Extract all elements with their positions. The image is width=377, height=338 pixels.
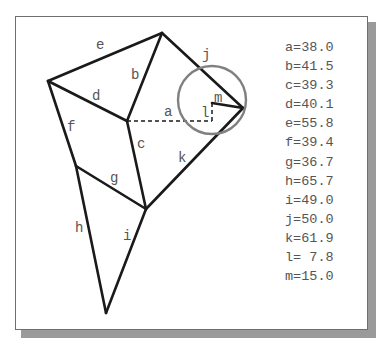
measurement-l: l= 7.8 bbox=[285, 248, 334, 267]
measurement-f: f=39.4 bbox=[285, 133, 334, 152]
label-c: c bbox=[137, 136, 145, 152]
label-j: j bbox=[202, 47, 210, 63]
edge-h bbox=[76, 166, 106, 313]
edge-k bbox=[146, 108, 243, 209]
label-b: b bbox=[131, 67, 139, 83]
measurement-m: m=15.0 bbox=[285, 267, 334, 286]
label-h: h bbox=[75, 220, 83, 236]
label-g: g bbox=[110, 170, 118, 186]
label-l: l bbox=[201, 105, 209, 121]
label-d: d bbox=[92, 88, 100, 104]
measurement-b: b=41.5 bbox=[285, 57, 334, 76]
label-m: m bbox=[214, 90, 222, 106]
measurement-list: a=38.0 b=41.5 c=39.3 d=40.1 e=55.8 f=39.… bbox=[285, 38, 334, 286]
measurement-k: k=61.9 bbox=[285, 229, 334, 248]
label-a: a bbox=[164, 104, 172, 120]
measurement-i: i=49.0 bbox=[285, 191, 334, 210]
measurement-c: c=39.3 bbox=[285, 76, 334, 95]
label-e: e bbox=[96, 37, 104, 53]
measurement-j: j=50.0 bbox=[285, 210, 334, 229]
label-f: f bbox=[67, 119, 75, 135]
measurement-e: e=55.8 bbox=[285, 114, 334, 133]
measurement-a: a=38.0 bbox=[285, 38, 334, 57]
edge-c bbox=[127, 121, 146, 209]
label-k: k bbox=[178, 150, 186, 166]
edge-i bbox=[106, 209, 146, 313]
measurement-h: h=65.7 bbox=[285, 172, 334, 191]
measurement-d: d=40.1 bbox=[285, 95, 334, 114]
label-i: i bbox=[123, 228, 131, 244]
measurement-g: g=36.7 bbox=[285, 153, 334, 172]
